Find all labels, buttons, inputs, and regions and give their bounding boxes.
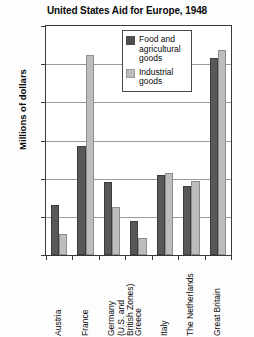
- bar: [77, 146, 85, 255]
- bar: [165, 173, 173, 255]
- x-tick-label: France: [81, 262, 91, 336]
- bar: [210, 58, 218, 255]
- x-tick-mark: [72, 256, 73, 260]
- bar: [112, 207, 120, 255]
- bar: [104, 182, 112, 255]
- bar: [157, 175, 165, 255]
- x-tick-label: Greece: [134, 262, 144, 336]
- chart-legend: Food and agricultural goods Industrial g…: [122, 30, 192, 92]
- bar: [191, 181, 199, 255]
- legend-swatch-icon-industrial: [126, 69, 135, 78]
- bar: [130, 221, 138, 255]
- bar-group: [51, 26, 67, 255]
- legend-item-food: Food and agricultural goods: [126, 35, 188, 64]
- legend-label-food: Food and agricultural goods: [139, 35, 188, 64]
- bar: [59, 234, 67, 255]
- bar: [218, 50, 226, 255]
- bar-group: [210, 26, 226, 255]
- x-tick-label: Austria: [54, 262, 64, 336]
- x-tick-mark: [125, 256, 126, 260]
- legend-label-industrial: Industrial goods: [139, 68, 188, 87]
- x-tick-mark: [205, 256, 206, 260]
- bar: [138, 238, 146, 255]
- bar: [86, 55, 94, 255]
- bar-group: [104, 26, 120, 255]
- bar-group: [77, 26, 93, 255]
- x-tick-mark: [99, 256, 100, 260]
- bar: [183, 186, 191, 255]
- legend-swatch-icon-food: [126, 36, 135, 45]
- legend-item-industrial: Industrial goods: [126, 68, 188, 87]
- x-tick-mark: [152, 256, 153, 260]
- bar-chart: United States Aid for Europe, 1948 Milli…: [0, 0, 254, 337]
- x-tick-label: The Netherlands: [186, 262, 196, 336]
- x-tick-label: Great Britain: [213, 262, 223, 336]
- x-tick-mark: [46, 256, 47, 260]
- x-tick-label: Italy: [160, 262, 170, 336]
- x-tick-label: Germany (U.S. and British Zones): [107, 262, 136, 336]
- x-tick-mark: [231, 256, 232, 260]
- bar: [51, 205, 59, 255]
- x-axis-labels: AustriaFranceGermany (U.S. and British Z…: [46, 262, 231, 336]
- x-tick-mark: [178, 256, 179, 260]
